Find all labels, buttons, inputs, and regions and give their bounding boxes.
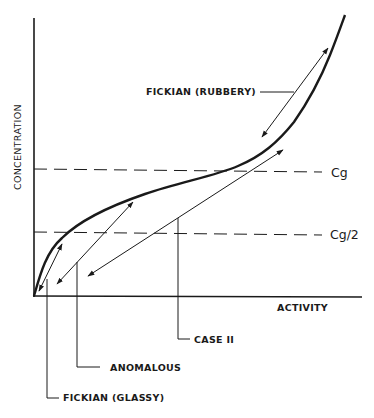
case-ii-label: CASE II: [194, 334, 234, 345]
case-ii-arrow: [88, 150, 283, 276]
cg-half-label: Cg/2: [330, 227, 359, 242]
anomalous-label: ANOMALOUS: [110, 362, 181, 373]
cg-label: Cg: [331, 165, 348, 180]
case-ii-leader-line: [178, 218, 190, 339]
cg-dashed-line: [34, 169, 322, 172]
y-axis-label: CONCENTRATION: [12, 104, 23, 190]
fickian-rubbery-label: FICKIAN (RUBBERY): [146, 86, 256, 97]
x-axis-label: ACTIVITY: [277, 302, 328, 313]
sorption-diagram: CONCENTRATION ACTIVITY Cg Cg/2 FICKIAN (…: [0, 0, 374, 418]
anomalous-leader-line: [77, 262, 100, 367]
isotherm-curve: [34, 15, 345, 296]
x-axis: [33, 296, 362, 297]
fickian-glassy-label: FICKIAN (GLASSY): [63, 392, 164, 403]
diagram-graphics: [0, 0, 374, 418]
